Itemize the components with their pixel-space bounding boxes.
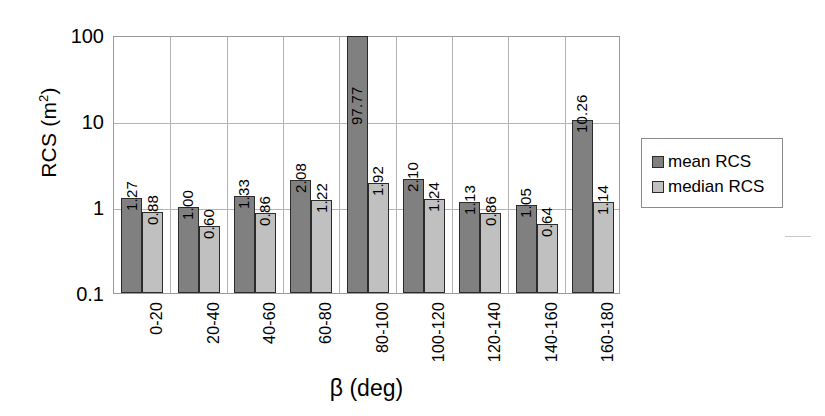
bar-value-label: 1.27 — [124, 181, 139, 211]
y-axis-tick-labels: 1001010.1 — [42, 0, 113, 416]
bar-value-label: 0.64 — [539, 207, 554, 237]
y-axis-tick-label: 0.1 — [42, 284, 113, 304]
chart-figure: RCS (m2) 1001010.1 1.270.881.000.601.330… — [0, 0, 825, 416]
bar-median-100-120[interactable] — [424, 199, 445, 293]
bar-mean-40-60[interactable] — [234, 196, 255, 293]
legend-item-mean-rcs: mean RCS — [652, 153, 774, 170]
plot-area: 1.270.881.000.601.330.862.081.2297.771.9… — [113, 36, 620, 294]
bar-value-label: 1.00 — [180, 190, 195, 220]
bar-value-label: 10.26 — [574, 94, 589, 133]
x-axis-tick-label-40-60: 40-60 — [262, 302, 278, 344]
bar-value-label: 0.88 — [145, 195, 160, 225]
bar-value-label: 97.77 — [349, 86, 364, 125]
legend-swatch-icon-mean — [652, 156, 664, 168]
gridline-vertical — [565, 37, 566, 293]
gridline-vertical — [283, 37, 284, 293]
bar-mean-80-100[interactable] — [347, 36, 368, 293]
gridline-vertical — [396, 37, 397, 293]
gridline-vertical — [452, 37, 453, 293]
bar-median-80-100[interactable] — [368, 183, 389, 293]
bar-value-label: 2.10 — [405, 162, 420, 192]
bar-value-label: 1.24 — [426, 182, 441, 212]
gridline-vertical — [170, 37, 171, 293]
chart-legend: mean RCS median RCS — [641, 138, 783, 208]
legend-swatch-icon-median — [652, 181, 664, 193]
y-axis-tick-label: 100 — [42, 26, 113, 46]
bar-value-label: 1.13 — [462, 185, 477, 215]
x-axis-title: β (deg) — [113, 375, 620, 402]
bar-mean-160-180[interactable] — [572, 120, 593, 293]
bar-value-label: 1.33 — [236, 179, 251, 209]
bar-mean-120-140[interactable] — [459, 202, 480, 293]
x-axis-tick-label-160-180: 160-180 — [600, 302, 616, 362]
bar-value-label: 0.86 — [483, 196, 498, 226]
x-axis-tick-label-0-20: 0-20 — [149, 302, 165, 335]
bar-value-label: 0.60 — [201, 209, 216, 239]
bar-value-label: 0.86 — [257, 196, 272, 226]
bar-value-label: 1.05 — [518, 188, 533, 218]
legend-item-median-rcs: median RCS — [652, 178, 774, 195]
bar-mean-60-80[interactable] — [290, 180, 311, 293]
bar-value-label: 2.08 — [293, 163, 308, 193]
scan-artifact — [785, 236, 811, 237]
y-axis-tick-label: 10 — [42, 112, 113, 132]
bar-median-160-180[interactable] — [593, 202, 614, 293]
bar-mean-0-20[interactable] — [121, 198, 142, 293]
legend-label-mean: mean RCS — [668, 153, 751, 170]
gridline-vertical — [227, 37, 228, 293]
x-axis-tick-label-100-120: 100-120 — [431, 302, 447, 362]
gridline-vertical — [508, 37, 509, 293]
y-axis-tick-label: 1 — [42, 198, 113, 218]
bar-value-label: 1.92 — [370, 166, 385, 196]
bar-median-60-80[interactable] — [311, 200, 332, 293]
bar-value-label: 1.22 — [314, 183, 329, 213]
bar-mean-140-160[interactable] — [516, 205, 537, 293]
gridline-vertical — [339, 37, 340, 293]
bar-value-label: 1.14 — [595, 185, 610, 215]
legend-label-median: median RCS — [668, 178, 764, 195]
x-axis-tick-label-60-80: 60-80 — [318, 302, 334, 344]
x-axis-tick-label-140-160: 140-160 — [544, 302, 560, 362]
bar-mean-100-120[interactable] — [403, 179, 424, 293]
x-axis-tick-label-120-140: 120-140 — [487, 302, 503, 362]
x-axis-tick-label-80-100: 80-100 — [375, 302, 391, 353]
x-axis-tick-label-20-40: 20-40 — [206, 302, 222, 344]
